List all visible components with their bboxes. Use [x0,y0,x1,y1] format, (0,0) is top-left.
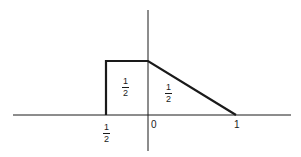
fraction-denominator: 2 [123,89,128,98]
left-tick-label: 1 2 [103,123,110,144]
origin-label: 0 [151,119,157,130]
fraction-numerator: 1 [104,123,109,132]
right-tick-label: 1 [234,119,240,130]
fraction-denominator: 2 [104,135,109,144]
fraction-numerator: 1 [166,83,171,92]
triangle-area-label: 1 2 [165,83,172,104]
fraction-denominator: 2 [166,95,171,104]
diagram-canvas [0,0,301,157]
fraction-numerator: 1 [123,77,128,86]
rectangle-area-label: 1 2 [122,77,129,98]
